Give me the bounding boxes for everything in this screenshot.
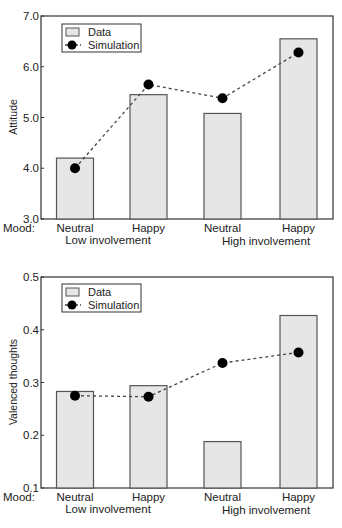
mood-label: Mood:	[3, 222, 35, 234]
data-bar	[280, 316, 317, 488]
data-bar	[204, 113, 241, 219]
y-axis-label: Attitude	[7, 99, 19, 135]
group-label-low: Low involvement	[65, 234, 151, 246]
simulation-marker	[218, 358, 228, 368]
y-tick-label: 0.3	[23, 377, 39, 389]
simulation-line	[75, 352, 299, 396]
legend-simulation-label: Simulation	[88, 39, 139, 51]
data-bar	[280, 39, 317, 219]
legend-bar-swatch	[66, 288, 79, 296]
data-bar	[204, 442, 241, 488]
simulation-marker	[144, 392, 154, 402]
y-tick-label: 7.0	[23, 10, 39, 22]
legend-data-label: Data	[88, 286, 112, 298]
group-label-low: Low involvement	[65, 503, 151, 515]
y-tick-label: 0.2	[23, 429, 39, 441]
y-tick-label: 5.0	[23, 112, 39, 124]
simulation-marker	[144, 80, 154, 90]
category-label: Happy	[282, 491, 315, 503]
legend-marker-swatch	[68, 301, 77, 310]
data-bar	[130, 95, 167, 219]
simulation-marker	[294, 48, 304, 58]
simulation-marker	[70, 163, 80, 173]
simulation-marker	[70, 391, 80, 401]
legend: DataSimulation	[62, 24, 141, 52]
category-label: Happy	[132, 222, 165, 234]
category-label: Neutral	[56, 491, 93, 503]
category-label: Happy	[282, 222, 315, 234]
category-label: Neutral	[56, 222, 93, 234]
legend-data-label: Data	[88, 26, 112, 38]
y-tick-label: 6.0	[23, 61, 39, 73]
legend-simulation-label: Simulation	[88, 299, 139, 311]
y-axis-label: Valenced thoughts	[7, 339, 19, 425]
group-label-high: High involvement	[222, 504, 311, 516]
simulation-line	[75, 53, 299, 169]
data-bar	[57, 391, 94, 488]
attitude-chart: 3.04.05.06.07.0AttitudeMood:NeutralHappy…	[3, 10, 333, 247]
simulation-marker	[218, 93, 228, 103]
legend: DataSimulation	[62, 284, 141, 312]
y-tick-label: 0.5	[23, 271, 39, 283]
y-tick-label: 0.4	[23, 324, 40, 336]
group-label-high: High involvement	[222, 235, 311, 247]
category-label: Neutral	[204, 222, 241, 234]
legend-marker-swatch	[68, 41, 77, 50]
legend-bar-swatch	[66, 28, 79, 36]
category-label: Happy	[132, 491, 165, 503]
category-label: Neutral	[204, 491, 241, 503]
valenced-thoughts-chart: 0.10.20.30.40.5Valenced thoughtsMood:Neu…	[3, 271, 333, 516]
y-tick-label: 4.0	[23, 162, 39, 174]
figure: 3.04.05.06.07.0AttitudeMood:NeutralHappy…	[0, 0, 342, 528]
simulation-marker	[294, 347, 304, 357]
mood-label: Mood:	[3, 491, 35, 503]
